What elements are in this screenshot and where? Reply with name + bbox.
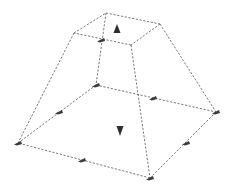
marker-bottom-left-vertex-icon: [14, 141, 22, 146]
marker-bottom-right-vertex-icon: [212, 110, 220, 115]
edge-top-back-to-bottom-back: [96, 13, 106, 85]
edge-top-right-to-bottom-right: [160, 24, 216, 112]
edge-top-right-to-top-front: [131, 24, 160, 45]
edge-markers: [14, 38, 220, 181]
edge-top-left-to-top-back: [74, 13, 106, 33]
marker-bottom-left-back-edge-icon: [55, 110, 63, 115]
frustum-edges: [18, 13, 216, 178]
edge-top-front-to-bottom-front: [131, 45, 150, 178]
marker-bottom-front-left-edge-icon: [78, 158, 86, 163]
marker-bottom-back-vertex-icon: [92, 83, 100, 88]
edge-top-back-to-top-right: [106, 13, 160, 24]
edge-top-left-to-bottom-left: [18, 33, 74, 143]
face-arrows: [114, 24, 124, 136]
frustum-diagram: [0, 0, 233, 193]
up-arrow-top-face-icon: [114, 24, 121, 33]
marker-bottom-back-right-edge-icon: [149, 96, 157, 101]
edge-bottom-right-to-bottom-front: [150, 112, 216, 178]
down-arrow-bottom-face-icon: [117, 126, 124, 136]
